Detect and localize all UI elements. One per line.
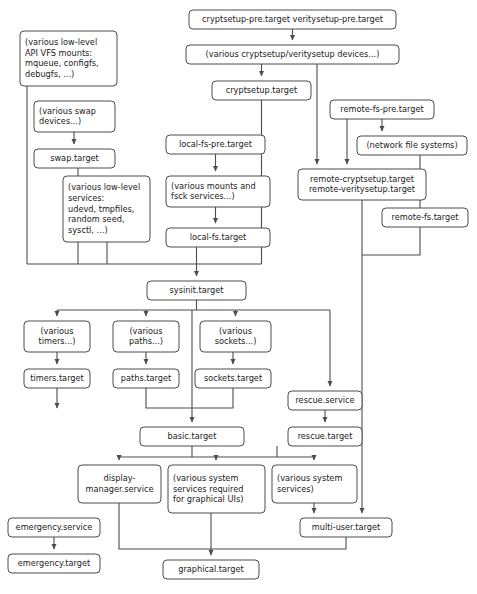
node-cryptsetup-target[interactable]: cryptsetup.target (212, 81, 311, 100)
node-label-local-fs-target: local-fs.target (190, 232, 247, 242)
node-label-various-low-level-services: udevd, tmpfiles, (68, 204, 134, 214)
node-label-display-manager-service: display- (104, 473, 136, 483)
node-label-various-graphical-services: services required (173, 484, 244, 494)
node-remote-cryptsetup[interactable]: remote-cryptsetup.targetremote-verityset… (298, 169, 426, 200)
node-cryptsetup-pre[interactable]: cryptsetup-pre.target veritysetup-pre.ta… (189, 10, 396, 29)
node-label-sockets-target: sockets.target (204, 373, 263, 383)
node-sysinit-target[interactable]: sysinit.target (147, 281, 246, 300)
node-label-various-paths: (various (129, 326, 162, 336)
node-local-fs-target[interactable]: local-fs.target (166, 228, 270, 247)
node-label-various-paths: paths...) (129, 336, 163, 346)
node-label-rescue-target: rescue.target (298, 431, 354, 441)
node-display-manager-service[interactable]: display-manager.service (78, 465, 161, 503)
node-label-cryptsetup-target: cryptsetup.target (226, 85, 298, 95)
node-label-graphical-target: graphical.target (178, 564, 244, 574)
node-remote-fs-target[interactable]: remote-fs.target (382, 208, 468, 227)
node-various-swap-devices[interactable]: (various swapdevices...) (34, 101, 115, 132)
node-sockets-target[interactable]: sockets.target (195, 369, 271, 388)
node-label-various-low-level-services: sysctl, ...) (68, 225, 108, 235)
node-label-various-mounts-fsck: fsck services...) (171, 191, 235, 201)
node-label-emergency-target: emergency.target (18, 558, 91, 568)
node-basic-target[interactable]: basic.target (140, 427, 244, 446)
node-label-various-system-services: (various system (277, 473, 342, 483)
node-label-timers-target: timers.target (30, 373, 84, 383)
node-various-system-services[interactable]: (various systemservices) (272, 465, 357, 503)
node-label-various-mounts-fsck: (various mounts and (171, 181, 256, 191)
node-label-display-manager-service: manager.service (86, 484, 154, 494)
node-label-basic-target: basic.target (168, 431, 218, 441)
node-local-fs-pre[interactable]: local-fs-pre.target (166, 135, 265, 154)
node-label-network-file-systems: (network file systems) (366, 140, 457, 150)
node-label-various-vfs-mounts: API VFS mounts: (25, 48, 92, 58)
node-label-multi-user-target: multi-user.target (312, 522, 381, 532)
node-label-remote-cryptsetup: remote-veritysetup.target (309, 184, 416, 194)
node-label-various-sockets: sockets...) (215, 336, 257, 346)
node-label-various-cryptsetup-devices: (various cryptsetup/veritysetup devices.… (206, 49, 380, 59)
node-various-mounts-fsck[interactable]: (various mounts andfsck services...) (166, 176, 270, 207)
node-label-various-low-level-services: random seed, (68, 214, 125, 224)
node-label-rescue-service: rescue.service (295, 395, 354, 405)
node-label-various-sockets: (various (219, 326, 252, 336)
node-label-various-low-level-services: (various low-level (68, 182, 140, 192)
node-emergency-target[interactable]: emergency.target (8, 554, 100, 573)
node-label-various-graphical-services: for graphical UIs) (173, 494, 243, 504)
node-label-various-low-level-services: services: (68, 193, 104, 203)
node-label-various-vfs-mounts: mqueue, configfs, (25, 58, 99, 68)
node-various-sockets[interactable]: (varioussockets...) (200, 321, 271, 352)
node-remote-fs-pre[interactable]: remote-fs-pre.target (330, 100, 434, 119)
node-rescue-target[interactable]: rescue.target (288, 427, 362, 446)
node-multi-user-target[interactable]: multi-user.target (300, 518, 392, 537)
node-various-vfs-mounts[interactable]: (various low-levelAPI VFS mounts:mqueue,… (20, 31, 117, 86)
node-graphical-target[interactable]: graphical.target (163, 560, 259, 579)
node-label-local-fs-pre: local-fs-pre.target (179, 139, 253, 149)
systemd-bootup-diagram: cryptsetup-pre.target veritysetup-pre.ta… (0, 0, 477, 594)
node-label-various-vfs-mounts: (various low-level (25, 37, 97, 47)
node-swap-target[interactable]: swap.target (34, 149, 115, 168)
node-rescue-service[interactable]: rescue.service (288, 391, 362, 410)
node-label-sysinit-target: sysinit.target (170, 285, 225, 295)
node-various-cryptsetup-devices[interactable]: (various cryptsetup/veritysetup devices.… (186, 45, 399, 64)
node-label-remote-cryptsetup: remote-cryptsetup.target (310, 174, 415, 184)
node-various-graphical-services[interactable]: (various systemservices requiredfor grap… (168, 465, 265, 513)
node-various-timers[interactable]: (varioustimers...) (24, 321, 90, 352)
node-emergency-service[interactable]: emergency.service (8, 518, 100, 537)
node-label-cryptsetup-pre: cryptsetup-pre.target veritysetup-pre.ta… (202, 14, 384, 24)
node-paths-target[interactable]: paths.target (113, 369, 179, 388)
node-label-paths-target: paths.target (121, 373, 172, 383)
node-label-swap-target: swap.target (50, 153, 99, 163)
node-various-low-level-services[interactable]: (various low-levelservices:udevd, tmpfil… (63, 176, 150, 242)
node-timers-target[interactable]: timers.target (24, 369, 90, 388)
node-label-various-swap-devices: (various swap (39, 106, 96, 116)
node-various-paths[interactable]: (variouspaths...) (113, 321, 179, 352)
node-label-various-vfs-mounts: debugfs, ...) (25, 69, 74, 79)
node-label-various-timers: timers...) (38, 336, 75, 346)
node-network-file-systems[interactable]: (network file systems) (357, 136, 467, 155)
node-label-emergency-service: emergency.service (16, 522, 93, 532)
node-label-remote-fs-pre: remote-fs-pre.target (340, 104, 424, 114)
node-label-remote-fs-target: remote-fs.target (391, 212, 459, 222)
node-label-various-graphical-services: (various system (173, 473, 238, 483)
node-label-various-timers: (various (40, 326, 73, 336)
node-label-various-system-services: services) (277, 484, 314, 494)
node-label-various-swap-devices: devices...) (39, 116, 81, 126)
